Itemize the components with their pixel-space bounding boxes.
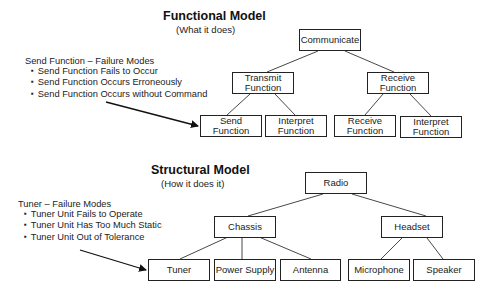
node-speaker: Speaker	[413, 259, 475, 281]
diagram-canvas: Functional Model (What it does) Send Fun…	[0, 0, 494, 293]
node-transmit-function: Transmit Function	[232, 72, 294, 94]
node-power-supply: Power Supply	[214, 259, 276, 281]
structural-model-subtitle: (How it does it)	[161, 178, 224, 189]
failure-mode-item: Tuner Unit Has Too Much Static	[24, 220, 162, 231]
tuner-failure-modes: Tuner – Failure Modes Tuner Unit Fails t…	[18, 199, 162, 243]
node-receive-function-leaf: Receive Function	[334, 115, 396, 137]
failure-mode-item: Tuner Unit Fails to Operate	[24, 209, 162, 220]
node-receive-function: Receive Function	[367, 72, 429, 94]
functional-model-title: Functional Model	[163, 9, 266, 23]
structural-model-title: Structural Model	[151, 163, 250, 177]
send-function-pointer-arrow	[106, 102, 198, 126]
connector-lines	[0, 0, 494, 293]
failure-mode-item: Send Function Fails to Occur	[31, 66, 207, 77]
failure-mode-item: Tuner Unit Out of Tolerance	[24, 232, 162, 243]
node-radio: Radio	[305, 172, 367, 194]
failure-mode-item: Send Function Occurs Erroneously	[31, 77, 207, 88]
send-function-failure-modes: Send Function – Failure Modes Send Funct…	[25, 56, 207, 100]
node-microphone: Microphone	[348, 259, 410, 281]
node-chassis: Chassis	[214, 216, 276, 238]
node-antenna: Antenna	[280, 259, 341, 281]
failure-mode-item: Send Function Occurs without Command	[31, 89, 207, 100]
node-communicate: Communicate	[299, 29, 361, 51]
tuner-pointer-arrow	[80, 250, 146, 270]
node-tuner: Tuner	[148, 259, 210, 281]
node-interpret-function-tx: Interpret Function	[265, 115, 327, 137]
node-headset: Headset	[381, 216, 443, 238]
failure-modes-heading: Tuner – Failure Modes	[18, 199, 162, 209]
node-send-function: Send Function	[200, 115, 262, 137]
failure-modes-heading: Send Function – Failure Modes	[25, 56, 207, 66]
node-interpret-function-rx: Interpret Function	[400, 116, 462, 138]
functional-model-subtitle: (What it does)	[176, 24, 235, 35]
